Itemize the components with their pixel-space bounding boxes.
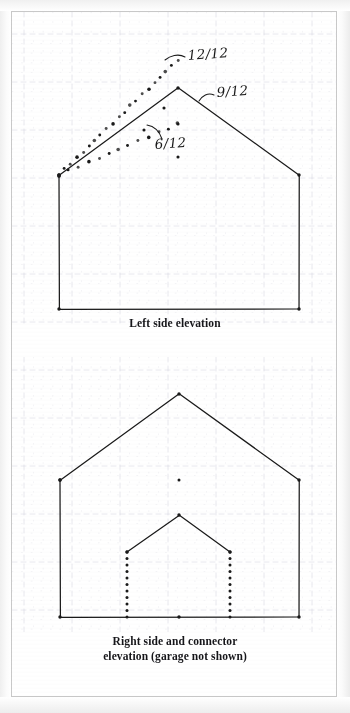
pencil-dot [229, 551, 232, 554]
pencil-dot [126, 596, 129, 599]
pencil-dot [126, 577, 129, 580]
vertex-dot [297, 173, 300, 176]
pitch-label-text: 6/12 [154, 134, 187, 152]
pencil-dot [176, 155, 179, 158]
pencil-dot [111, 122, 115, 126]
pencil-dot [229, 557, 232, 560]
vertex-dot [57, 307, 60, 310]
pencil-dot [126, 570, 129, 573]
right-side-elevation-drawing [12, 357, 338, 632]
pencil-dot [167, 128, 170, 131]
pencil-dot [126, 590, 129, 593]
vertex-dot [297, 478, 300, 481]
roof-slope-12-12-dotted [57, 59, 179, 178]
pencil-dot [229, 596, 232, 599]
pencil-dot [126, 609, 129, 612]
pencil-dot [229, 570, 232, 573]
pencil-dot [229, 616, 232, 619]
pencil-dot [93, 139, 97, 143]
vertex-dot [297, 307, 300, 310]
pencil-dot [75, 155, 79, 159]
pencil-dot [88, 145, 91, 148]
caption-right-side-elevation: Right side and connector elevation (gara… [12, 634, 338, 664]
pencil-dot [147, 88, 151, 92]
scan-edge-shadow-bottom [0, 697, 350, 713]
pencil-dot [229, 577, 232, 580]
vertex-dot [58, 615, 61, 618]
leader-line [199, 94, 214, 101]
pencil-dot [69, 163, 72, 166]
connector-gable [127, 515, 230, 552]
pencil-dot [118, 115, 121, 118]
pencil-dot [163, 70, 167, 74]
pencil-dot [229, 603, 232, 606]
pencil-dot [126, 551, 129, 554]
page-border-frame: 12/129/126/12 Left side elevation Right … [11, 11, 337, 697]
figure-right-side-elevation: Right side and connector elevation (gara… [12, 357, 338, 687]
pencil-dot [229, 609, 232, 612]
pencil-dot [126, 564, 129, 567]
pitch-label-text: 9/12 [216, 82, 249, 100]
pencil-dot [154, 81, 157, 84]
vertex-dot [58, 478, 61, 481]
scan-edge-shadow-right [337, 0, 350, 713]
vertex-dot [176, 86, 179, 89]
figure-left-side-elevation: 12/129/126/12 Left side elevation [12, 12, 338, 342]
pencil-dot [126, 583, 129, 586]
pencil-dot [142, 128, 145, 131]
pencil-dot [229, 590, 232, 593]
pencil-dot [159, 76, 162, 79]
pencil-dot [82, 151, 85, 154]
left-side-elevation-drawing: 12/129/126/12 [12, 12, 338, 324]
caption-text-line2: elevation (garage not shown) [12, 649, 338, 664]
pencil-dot [126, 616, 129, 619]
pencil-dot [141, 92, 144, 95]
connector-wall-left [126, 551, 129, 619]
pencil-dot [126, 557, 129, 560]
pencil-dot [229, 564, 232, 567]
vertex-dot [177, 513, 180, 516]
pencil-dot [116, 148, 120, 152]
pitch-annotation-9-12: 9/12 [199, 82, 249, 101]
pencil-dot [105, 127, 108, 130]
pencil-dot [170, 64, 173, 67]
pencil-dot [162, 106, 165, 109]
pencil-dot [123, 111, 126, 114]
pencil-dot [177, 59, 180, 62]
pencil-dot [63, 167, 66, 170]
vertex-dot [57, 173, 60, 176]
pencil-dot [128, 103, 132, 107]
pencil-dot [126, 603, 129, 606]
pencil-dot [178, 479, 181, 482]
vertex-dot [297, 615, 300, 618]
caption-text: Left side elevation [129, 317, 220, 329]
pencil-dot [87, 160, 91, 164]
pencil-dot [136, 139, 139, 142]
pencil-dot [134, 100, 137, 103]
pitch-annotation-12-12: 12/12 [165, 44, 229, 63]
caption-left-side-elevation: Left side elevation [12, 316, 338, 331]
scan-edge-shadow-left [0, 0, 11, 713]
pencil-dot [98, 157, 101, 160]
scanned-page: 12/129/126/12 Left side elevation Right … [0, 0, 350, 713]
pencil-dot [176, 122, 179, 125]
connector-wall-right [229, 551, 232, 619]
pencil-dot [98, 134, 101, 137]
pencil-dot [147, 136, 151, 140]
pitch-label-text: 12/12 [187, 44, 229, 63]
pencil-dot [177, 615, 180, 618]
scan-edge-shadow-top [0, 0, 350, 11]
house-outline [59, 88, 299, 309]
pencil-dot [77, 166, 80, 169]
house-outline [60, 394, 299, 617]
pencil-dot [108, 152, 111, 155]
caption-text-line1: Right side and connector [12, 634, 338, 649]
vertex-dot [177, 392, 180, 395]
pencil-dot [229, 583, 232, 586]
pencil-dot [126, 144, 129, 147]
